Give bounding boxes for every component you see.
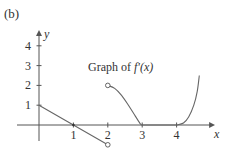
y-tick-label: 4 bbox=[25, 39, 31, 53]
y-tick-label: 2 bbox=[25, 78, 31, 92]
graph-annotation: Graph of f'(x) bbox=[88, 60, 153, 74]
x-tick-label: 3 bbox=[139, 128, 145, 142]
x-tick-label: 2 bbox=[105, 128, 111, 142]
point-marker bbox=[72, 124, 75, 127]
y-tick-label: 1 bbox=[25, 98, 31, 112]
open-endpoint-marker bbox=[106, 143, 111, 148]
axes bbox=[17, 33, 212, 141]
series-2-path bbox=[108, 85, 142, 125]
open-endpoint-marker bbox=[106, 83, 111, 88]
panel-label: (b) bbox=[4, 6, 19, 22]
x-tick-label: 4 bbox=[174, 128, 180, 142]
x-tick-label: 1 bbox=[70, 128, 76, 142]
figure: (b) 12341234xy Graph of f'(x) bbox=[0, 0, 226, 152]
y-axis-label: y bbox=[43, 27, 50, 41]
y-tick-label: 3 bbox=[25, 59, 31, 73]
series-4-path bbox=[177, 76, 200, 126]
x-axis-label: x bbox=[213, 127, 220, 141]
plot-area: 12341234xy Graph of f'(x) bbox=[0, 0, 226, 152]
